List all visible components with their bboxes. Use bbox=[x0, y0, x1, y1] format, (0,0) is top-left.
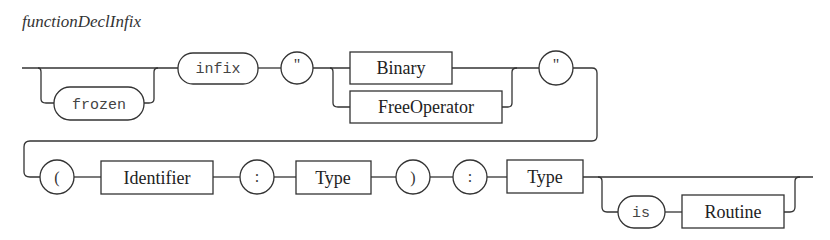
is-terminal: is bbox=[618, 196, 665, 228]
svg-text:Routine: Routine bbox=[705, 202, 762, 222]
svg-text:FreeOperator: FreeOperator bbox=[378, 97, 474, 117]
svg-text:): ) bbox=[410, 169, 415, 187]
svg-text:is: is bbox=[632, 205, 650, 222]
svg-text:Type: Type bbox=[527, 167, 563, 187]
svg-text:Binary: Binary bbox=[377, 58, 426, 78]
param-type-nonterminal: Type bbox=[296, 161, 371, 194]
identifier-nonterminal: Identifier bbox=[101, 161, 213, 194]
svg-text:frozen: frozen bbox=[72, 97, 126, 114]
diagram-title: functionDeclInfix bbox=[22, 12, 141, 31]
svg-text::: : bbox=[468, 168, 472, 185]
routine-nonterminal: Routine bbox=[682, 195, 784, 228]
return-type-nonterminal: Type bbox=[507, 160, 583, 193]
svg-text:infix: infix bbox=[195, 61, 240, 78]
railroad-diagram: functionDeclInfix frozen infix " Binary … bbox=[0, 0, 830, 240]
svg-text:(: ( bbox=[54, 169, 59, 187]
svg-text:Identifier: Identifier bbox=[124, 168, 191, 188]
frozen-terminal: frozen bbox=[54, 87, 144, 120]
infix-terminal: infix bbox=[178, 53, 258, 84]
open-paren-terminal: ( bbox=[40, 160, 74, 194]
svg-text:": " bbox=[294, 56, 301, 73]
svg-text:": " bbox=[553, 56, 560, 73]
close-quote-terminal: " bbox=[539, 51, 573, 85]
close-paren-terminal: ) bbox=[396, 160, 430, 194]
open-quote-terminal: " bbox=[281, 52, 313, 84]
svg-text::: : bbox=[255, 168, 259, 185]
return-colon-terminal: : bbox=[453, 160, 487, 194]
param-colon-terminal: : bbox=[240, 160, 274, 194]
freeoperator-nonterminal: FreeOperator bbox=[350, 91, 502, 123]
svg-text:Type: Type bbox=[315, 168, 351, 188]
binary-nonterminal: Binary bbox=[350, 52, 452, 84]
